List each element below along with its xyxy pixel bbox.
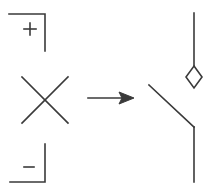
top-terminal-bracket xyxy=(9,14,45,51)
switch-blade xyxy=(149,85,194,127)
diagram-canvas xyxy=(0,0,212,195)
bottom-terminal-bracket xyxy=(10,144,45,182)
plus-icon xyxy=(24,23,36,35)
diamond-contact-icon xyxy=(186,66,202,88)
cross-icon xyxy=(22,77,68,123)
arrow-right-icon xyxy=(88,92,134,104)
